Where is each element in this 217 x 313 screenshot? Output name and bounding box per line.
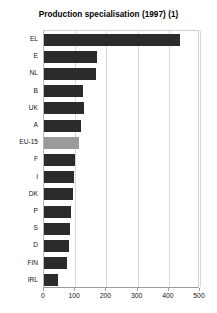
bar-row	[44, 48, 200, 65]
y-tick-label-a: A	[0, 116, 40, 133]
x-tick-label-100: 100	[69, 292, 80, 299]
bar-fin	[44, 257, 67, 269]
gridline-500	[200, 31, 201, 287]
bar-row	[44, 31, 200, 48]
x-tick-mark-400	[168, 288, 169, 291]
y-tick-label-uk: UK	[0, 99, 40, 116]
bar-e	[44, 51, 97, 63]
chart-title: Production specialisation (1997) (1)	[0, 10, 217, 19]
x-tick-mark-500	[199, 288, 200, 291]
bar-row	[44, 255, 200, 272]
y-tick-label-fin: FIN	[0, 254, 40, 271]
y-tick-label-f: F	[0, 150, 40, 167]
x-axis-tick-labels: 0100200300400500	[0, 292, 217, 306]
y-tick-label-p: P	[0, 202, 40, 219]
bar-row	[44, 272, 200, 289]
x-tick-mark-0	[43, 288, 44, 291]
bar-eu-15	[44, 137, 79, 149]
bar-dk	[44, 188, 73, 200]
bar-row	[44, 134, 200, 151]
plot-area	[43, 30, 199, 288]
bar-row	[44, 220, 200, 237]
bar-row	[44, 203, 200, 220]
chart-figure: Production specialisation (1997) (1) ELE…	[0, 0, 217, 313]
bar-p	[44, 206, 71, 218]
y-axis-tick-labels: ELENLBUKAEU-15FIDKPSDFINIRL	[0, 30, 40, 288]
bar-nl	[44, 68, 96, 80]
y-tick-label-b: B	[0, 82, 40, 99]
y-tick-label-e: E	[0, 47, 40, 64]
bars-layer	[44, 31, 198, 287]
bar-row	[44, 100, 200, 117]
x-tick-mark-300	[137, 288, 138, 291]
y-tick-label-s: S	[0, 219, 40, 236]
bar-row	[44, 186, 200, 203]
bar-row	[44, 237, 200, 254]
bar-d	[44, 240, 69, 252]
y-tick-label-i: I	[0, 168, 40, 185]
bar-i	[44, 171, 74, 183]
bar-b	[44, 85, 83, 97]
bar-s	[44, 223, 70, 235]
x-tick-mark-100	[74, 288, 75, 291]
y-tick-label-nl: NL	[0, 64, 40, 81]
y-tick-label-d: D	[0, 236, 40, 253]
bar-irl	[44, 274, 58, 286]
bar-row	[44, 151, 200, 168]
y-tick-label-dk: DK	[0, 185, 40, 202]
x-tick-mark-200	[105, 288, 106, 291]
bar-row	[44, 169, 200, 186]
x-tick-label-500: 500	[193, 292, 204, 299]
bar-el	[44, 34, 180, 46]
bar-row	[44, 65, 200, 82]
x-tick-label-200: 200	[100, 292, 111, 299]
y-tick-label-el: EL	[0, 30, 40, 47]
x-tick-label-300: 300	[131, 292, 142, 299]
bar-uk	[44, 102, 84, 114]
bar-f	[44, 154, 75, 166]
y-tick-label-irl: IRL	[0, 271, 40, 288]
x-tick-label-0: 0	[41, 292, 45, 299]
bar-row	[44, 83, 200, 100]
x-tick-label-400: 400	[162, 292, 173, 299]
y-tick-label-eu-15: EU-15	[0, 133, 40, 150]
bar-row	[44, 117, 200, 134]
bar-a	[44, 120, 81, 132]
